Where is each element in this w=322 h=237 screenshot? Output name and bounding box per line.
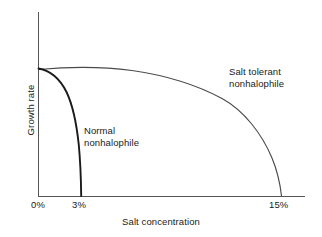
x-axis-title: Salt concentration [0, 216, 322, 227]
annotation-salt-tolerant-nonhalophile: Salt tolerant nonhalophile [229, 66, 284, 89]
annotation-normal-nonhalophile: Normal nonhalophile [84, 125, 139, 148]
annotation-tolerant-line1: Salt tolerant [229, 66, 284, 78]
annotation-normal-line1: Normal [84, 125, 139, 137]
annotation-tolerant-line2: nonhalophile [229, 78, 284, 90]
curve-normal-nonhalophile [39, 69, 82, 197]
y-axis-title: Growth rate [25, 75, 36, 145]
x-tick-label-0: 0% [31, 199, 45, 210]
annotation-normal-line2: nonhalophile [84, 137, 139, 149]
x-tick-label-15: 15% [269, 199, 288, 210]
x-tick-label-3: 3% [72, 199, 86, 210]
chart-figure: Growth rate Salt concentration 0% 3% 15%… [0, 0, 322, 237]
